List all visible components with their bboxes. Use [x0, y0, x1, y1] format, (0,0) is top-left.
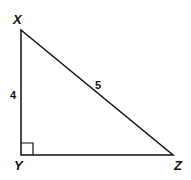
vertex-label-z: Z — [173, 158, 183, 173]
right-angle-marker — [21, 143, 33, 155]
vertex-label-y: Y — [14, 158, 24, 173]
triangle-xyz — [21, 30, 173, 155]
vertex-label-x: X — [12, 12, 23, 27]
triangle-diagram: X Y Z 4 5 — [0, 0, 191, 180]
side-label-xz: 5 — [95, 79, 101, 91]
side-label-xy: 4 — [10, 89, 17, 101]
